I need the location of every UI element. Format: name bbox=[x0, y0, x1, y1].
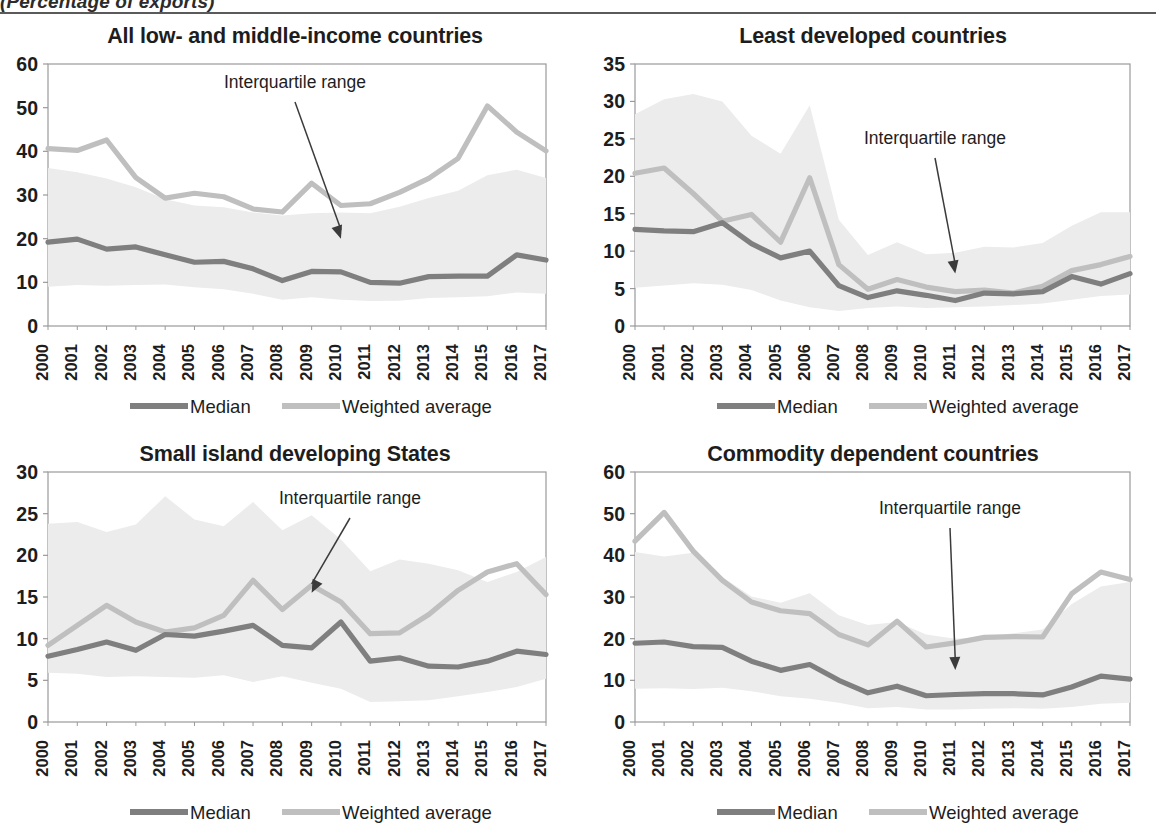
interquartile-range-annotation-label: Interquartile range bbox=[879, 498, 1021, 518]
x-axis-tick-label: 2003 bbox=[121, 344, 139, 381]
x-axis-tick-label: 2017 bbox=[531, 740, 549, 777]
x-axis-tick-label: 2012 bbox=[969, 740, 987, 777]
x-axis-tick-label: 2003 bbox=[707, 344, 725, 381]
legend-label-weighted-average: Weighted average bbox=[342, 396, 492, 417]
x-axis-tick-label: 2006 bbox=[209, 344, 227, 381]
x-axis-tick-label: 2011 bbox=[355, 344, 373, 380]
x-axis-tick-label: 2016 bbox=[502, 740, 520, 777]
x-axis-tick-label: 2009 bbox=[297, 740, 315, 777]
x-axis-tick-label: 2012 bbox=[385, 344, 403, 381]
x-axis-tick-label: 2013 bbox=[999, 344, 1017, 381]
y-axis-tick-label: 10 bbox=[603, 669, 625, 691]
panel-commodity-dependent-countries: Commodity dependent countries 0102030405… bbox=[590, 432, 1156, 838]
y-axis-tick-label: 5 bbox=[27, 669, 38, 691]
y-axis-tick-label: 60 bbox=[16, 53, 38, 75]
x-axis-tick-label: 2004 bbox=[736, 343, 754, 381]
x-axis-tick-label: 2001 bbox=[62, 740, 80, 777]
x-axis-tick-label: 2009 bbox=[882, 344, 900, 381]
chart-grid: All low- and middle-income countries 010… bbox=[0, 14, 1156, 838]
y-axis-tick-label: 10 bbox=[16, 628, 38, 650]
interquartile-range-annotation-label: Interquartile range bbox=[224, 72, 366, 92]
y-axis-tick-label: 60 bbox=[603, 461, 625, 483]
chart-svg: 0102030405060200020012002200320042005200… bbox=[0, 14, 590, 432]
y-axis-tick-label: 5 bbox=[614, 278, 625, 300]
x-axis-tick-label: 2007 bbox=[238, 344, 256, 381]
x-axis-tick-label: 2015 bbox=[1057, 344, 1075, 381]
chart-svg: 0510152025303520002001200220032004200520… bbox=[590, 14, 1156, 432]
legend-label-median: Median bbox=[190, 802, 251, 823]
x-axis-tick-label: 2004 bbox=[150, 343, 168, 381]
x-axis-tick-label: 2011 bbox=[940, 344, 958, 380]
x-axis-tick-label: 2013 bbox=[414, 344, 432, 381]
x-axis-tick-label: 2002 bbox=[92, 740, 110, 777]
y-axis-tick-label: 35 bbox=[603, 53, 625, 75]
x-axis-tick-label: 2009 bbox=[882, 740, 900, 777]
y-axis-tick-label: 0 bbox=[27, 315, 38, 337]
x-axis-tick-label: 2002 bbox=[678, 740, 696, 777]
x-axis-tick-label: 2006 bbox=[795, 344, 813, 381]
x-axis-tick-label: 2000 bbox=[33, 344, 51, 381]
x-axis-tick-label: 2014 bbox=[1028, 343, 1046, 381]
legend-label-median: Median bbox=[777, 396, 838, 417]
x-axis-tick-label: 2005 bbox=[766, 344, 784, 381]
y-axis-tick-label: 50 bbox=[16, 97, 38, 119]
y-axis-tick-label: 30 bbox=[16, 184, 38, 206]
x-axis-tick-label: 2005 bbox=[766, 740, 784, 777]
x-axis-tick-label: 2008 bbox=[267, 344, 285, 381]
x-axis-tick-label: 2015 bbox=[472, 344, 490, 381]
y-axis-tick-label: 50 bbox=[603, 503, 625, 525]
x-axis-tick-label: 2008 bbox=[853, 344, 871, 381]
x-axis-tick-label: 2004 bbox=[736, 739, 754, 777]
y-axis-tick-label: 25 bbox=[603, 128, 625, 150]
y-axis-tick-label: 15 bbox=[16, 586, 38, 608]
x-axis-tick-label: 2010 bbox=[911, 344, 929, 381]
panel-least-developed-countries: Least developed countries 05101520253035… bbox=[590, 14, 1156, 432]
x-axis-tick-label: 2010 bbox=[326, 740, 344, 777]
y-axis-tick-label: 40 bbox=[16, 140, 38, 162]
y-axis-tick-label: 0 bbox=[27, 711, 38, 733]
y-axis-tick-label: 30 bbox=[603, 586, 625, 608]
y-axis-tick-label: 20 bbox=[16, 544, 38, 566]
x-axis-tick-label: 2010 bbox=[911, 740, 929, 777]
x-axis-tick-label: 2012 bbox=[969, 344, 987, 381]
x-axis-tick-label: 2003 bbox=[707, 740, 725, 777]
x-axis-tick-label: 2001 bbox=[62, 344, 80, 381]
x-axis-tick-label: 2012 bbox=[385, 740, 403, 777]
x-axis-tick-label: 2008 bbox=[267, 740, 285, 777]
y-axis-tick-label: 0 bbox=[614, 711, 625, 733]
interquartile-range-annotation-label: Interquartile range bbox=[279, 488, 421, 508]
x-axis-tick-label: 2002 bbox=[678, 344, 696, 381]
x-axis-tick-label: 2005 bbox=[179, 344, 197, 381]
legend-label-weighted-average: Weighted average bbox=[342, 802, 492, 823]
y-axis-tick-label: 10 bbox=[16, 271, 38, 293]
x-axis-tick-label: 2011 bbox=[355, 740, 373, 776]
x-axis-tick-label: 2011 bbox=[940, 740, 958, 776]
x-axis-tick-label: 2014 bbox=[443, 343, 461, 381]
x-axis-tick-label: 2007 bbox=[824, 740, 842, 777]
chart-svg: 0102030405060200020012002200320042005200… bbox=[590, 432, 1156, 838]
y-axis-tick-label: 25 bbox=[16, 503, 38, 525]
legend-label-weighted-average: Weighted average bbox=[929, 396, 1079, 417]
panel-all-low-and-middle-income-countries: All low- and middle-income countries 010… bbox=[0, 14, 590, 432]
x-axis-tick-label: 2006 bbox=[209, 740, 227, 777]
x-axis-tick-label: 2003 bbox=[121, 740, 139, 777]
x-axis-tick-label: 2007 bbox=[824, 344, 842, 381]
legend-label-weighted-average: Weighted average bbox=[929, 802, 1079, 823]
legend-label-median: Median bbox=[777, 802, 838, 823]
x-axis-tick-label: 2017 bbox=[1115, 344, 1133, 381]
x-axis-tick-label: 2015 bbox=[472, 740, 490, 777]
x-axis-tick-label: 2000 bbox=[620, 740, 638, 777]
x-axis-tick-label: 2010 bbox=[326, 344, 344, 381]
interquartile-range-annotation-label: Interquartile range bbox=[864, 128, 1006, 148]
x-axis-tick-label: 2015 bbox=[1057, 740, 1075, 777]
y-axis-tick-label: 30 bbox=[603, 90, 625, 112]
x-axis-tick-label: 2005 bbox=[179, 740, 197, 777]
y-axis-tick-label: 10 bbox=[603, 240, 625, 262]
y-axis-tick-label: 20 bbox=[603, 628, 625, 650]
chart-svg: 0510152025302000200120022003200420052006… bbox=[0, 432, 590, 838]
x-axis-tick-label: 2000 bbox=[33, 740, 51, 777]
y-axis-tick-label: 0 bbox=[614, 315, 625, 337]
x-axis-tick-label: 2002 bbox=[92, 344, 110, 381]
x-axis-tick-label: 2008 bbox=[853, 740, 871, 777]
x-axis-tick-label: 2007 bbox=[238, 740, 256, 777]
